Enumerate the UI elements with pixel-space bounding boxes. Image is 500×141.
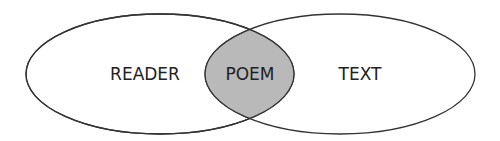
reader-label: READER [110, 64, 180, 84]
text-label: TEXT [338, 64, 382, 84]
venn-diagram: READER POEM TEXT [0, 0, 500, 141]
poem-label: POEM [225, 64, 274, 84]
